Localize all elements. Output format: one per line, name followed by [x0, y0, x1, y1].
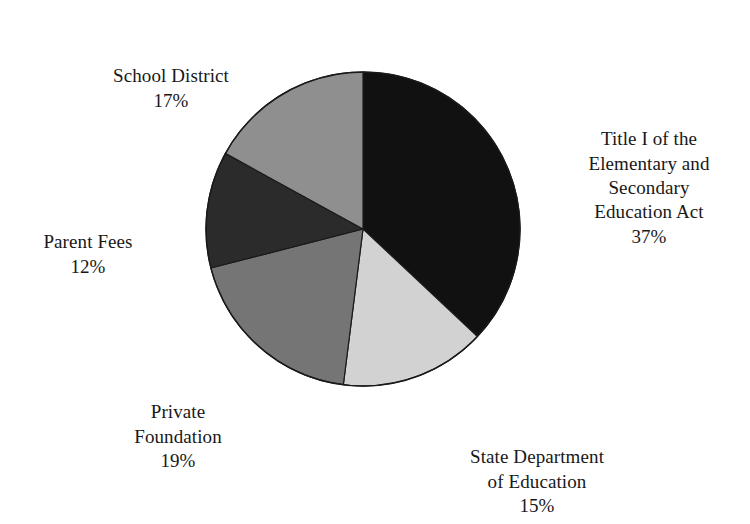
pie-label-parent-fees-percent: 12% [8, 255, 168, 279]
pie-label-title-i: Title I of the Elementary and Secondary … [556, 103, 742, 273]
pie-label-parent-fees: Parent Fees 12% [8, 206, 168, 303]
pie-label-private-foundation-percent: 19% [86, 449, 270, 473]
pie-label-school-district-percent: 17% [66, 89, 276, 113]
pie-label-title-i-percent: 37% [556, 225, 742, 249]
pie-label-state-department-percent: 15% [424, 494, 650, 518]
pie-label-school-district: School District 17% [66, 40, 276, 137]
pie-label-school-district-text: School District [113, 65, 229, 86]
pie-label-parent-fees-text: Parent Fees [43, 231, 132, 252]
pie-label-state-department-of-education: State Department of Education 15% [424, 421, 650, 524]
pie-label-title-i-text: Title I of the Elementary and Secondary … [588, 128, 709, 222]
pie-label-private-foundation-text: Private Foundation [134, 401, 222, 446]
pie-label-private-foundation: Private Foundation 19% [86, 376, 270, 498]
pie-label-state-department-text: State Department of Education [470, 446, 604, 491]
pie-chart: Title I of the Elementary and Secondary … [0, 0, 750, 524]
